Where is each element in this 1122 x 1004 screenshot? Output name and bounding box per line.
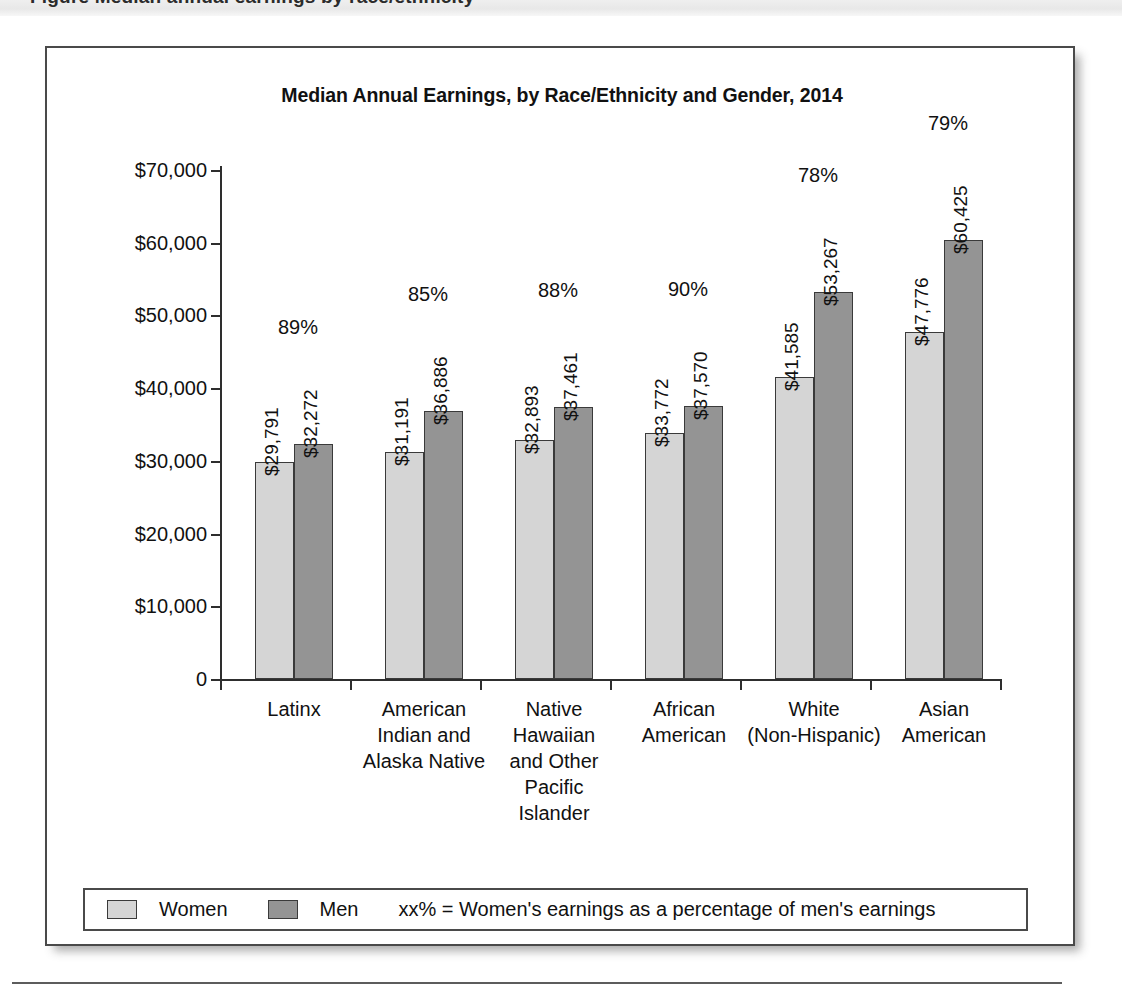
y-axis-tick [211,315,221,317]
ratio-percent-label: 90% [668,278,708,301]
y-axis-tick-label: $60,000 [77,231,207,254]
y-axis-tick-label: $50,000 [77,304,207,327]
ratio-percent-label: 89% [278,316,318,339]
ratio-percent-label: 85% [408,283,448,306]
x-axis-category-label: Latinx [222,696,366,722]
bar-women [385,452,424,679]
bar-value-label: $31,191 [391,398,413,467]
bar-value-label: $33,772 [651,379,673,448]
chart-plot-area: $70,000$60,000$50,000$40,000$30,000$20,0… [47,48,1077,948]
legend-label-women: Women [159,898,228,921]
y-axis-tick-label: $10,000 [77,595,207,618]
y-axis-tick [211,170,221,172]
page-header-band: Figure Median annual earnings by race/et… [0,0,1122,16]
legend-swatch-women [107,900,137,919]
y-axis-tick-label: $40,000 [77,377,207,400]
bar-value-label: $32,893 [521,385,543,454]
y-axis-tick [211,534,221,536]
x-axis-tick [870,679,872,690]
ratio-percent-label: 88% [538,279,578,302]
bar-men [944,240,983,679]
x-axis-category-label: Native Hawaiian and Other Pacific Island… [482,696,626,826]
bar-value-label: $29,791 [261,408,283,477]
bar-men [294,444,333,679]
legend-label-men: Men [320,898,359,921]
bar-value-label: $32,272 [300,390,322,459]
bar-value-label: $60,425 [950,185,972,254]
y-axis-tick-label: $20,000 [77,522,207,545]
bar-value-label: $37,461 [560,352,582,421]
bar-men [424,411,463,679]
x-axis-tick [610,679,612,690]
bar-value-label: $37,570 [690,351,712,420]
y-axis-tick-label: $30,000 [77,449,207,472]
x-axis-tick [480,679,482,690]
bar-women [775,377,814,679]
bar-value-label: $41,585 [781,322,803,391]
x-axis-tick [350,679,352,690]
legend-swatch-men [268,900,298,919]
page-bottom-rule [12,982,1062,984]
figure-frame: Median Annual Earnings, by Race/Ethnicit… [45,46,1075,946]
x-axis-tick [220,679,222,690]
y-axis-tick [211,388,221,390]
bar-women [645,433,684,679]
ratio-percent-label: 78% [798,164,838,187]
bar-men [814,292,853,679]
y-axis-tick [211,243,221,245]
x-axis-category-label: African American [612,696,756,748]
ratio-percent-label: 79% [928,112,968,135]
x-axis-category-label: Asian American [872,696,1016,748]
legend-note: xx% = Women's earnings as a percentage o… [398,898,935,921]
y-axis-tick [211,461,221,463]
bar-value-label: $53,267 [820,237,842,306]
bar-value-label: $36,886 [430,356,452,425]
bar-women [905,332,944,679]
chart-legend: Women Men xx% = Women's earnings as a pe… [83,888,1028,931]
x-axis-tick [740,679,742,690]
bar-women [255,462,294,679]
x-axis-category-label: White (Non-Hispanic) [742,696,886,748]
y-axis-tick-label: 0 [77,668,207,691]
y-axis-tick-label: $70,000 [77,159,207,182]
x-axis-category-label: American Indian and Alaska Native [352,696,496,774]
x-axis-tick [1000,679,1002,690]
page-header-ghost-text: Figure Median annual earnings by race/et… [30,0,474,8]
bar-men [554,407,593,679]
y-axis-tick [211,606,221,608]
bar-women [515,440,554,679]
bar-value-label: $47,776 [911,277,933,346]
bar-men [684,406,723,679]
